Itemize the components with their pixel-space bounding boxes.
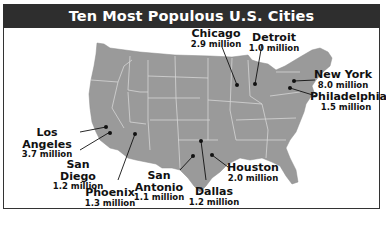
marker-dallas (199, 139, 203, 143)
label-houston: Houston 2.0 million (224, 162, 282, 182)
marker-new-york (292, 79, 296, 83)
marker-san-antonio (191, 154, 195, 158)
label-dallas: Dallas 1.2 million (186, 186, 242, 206)
marker-houston (210, 153, 214, 157)
label-los-angeles: Los Angeles 3.7 million (10, 127, 84, 159)
label-philadelphia: Philadelphia 1.5 million (310, 91, 382, 111)
marker-los-angeles (104, 125, 108, 129)
marker-philadelphia (288, 86, 292, 90)
label-san-antonio: San Antonio 1.1 million (122, 170, 196, 202)
marker-san-diego (108, 131, 112, 135)
label-new-york: New York 8.0 million (312, 69, 374, 89)
marker-detroit (253, 82, 257, 86)
label-detroit: Detroit 1.0 million (246, 32, 302, 52)
marker-chicago (235, 83, 239, 87)
marker-phoenix (133, 132, 137, 136)
label-chicago: Chicago 2.9 million (186, 28, 246, 48)
